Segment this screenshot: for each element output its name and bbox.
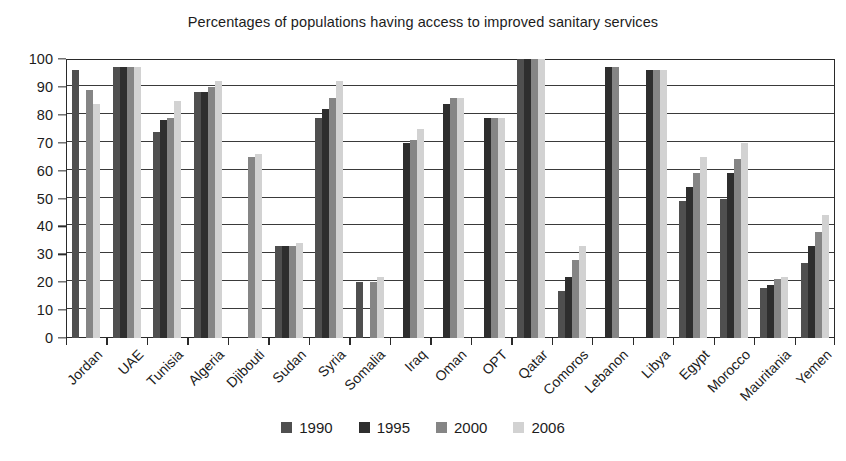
y-tick-mark-10 [58, 309, 66, 310]
x-axis-label-lebanon: Lebanon [582, 347, 630, 395]
x-tick-mark [187, 338, 188, 345]
legend-label: 2000 [454, 420, 487, 435]
y-tick-mark-100 [58, 58, 66, 59]
x-tick-mark [66, 338, 67, 345]
x-axis-label-algeria: Algeria [185, 347, 226, 388]
x-tick-mark [633, 338, 634, 345]
x-axis-label-somalia: Somalia [342, 347, 388, 393]
x-axis-label-egypt: Egypt [677, 347, 712, 382]
y-tick-mark-70 [58, 142, 66, 143]
x-tick-mark [592, 338, 593, 345]
bar-chart: Percentages of populations having access… [0, 0, 846, 461]
y-tick-mark-90 [58, 86, 66, 87]
x-axis-label-uae: UAE [115, 347, 145, 377]
x-axis-label-syria: Syria [315, 347, 347, 379]
y-tick-mark-20 [58, 282, 66, 283]
plot-area [66, 59, 835, 338]
gridline-90 [67, 85, 834, 86]
y-tick-mark-0 [58, 337, 66, 338]
y-tick-label-90: 90 [37, 79, 53, 95]
x-tick-mark [228, 338, 229, 345]
x-axis-label-djibouti: Djibouti [224, 347, 267, 390]
y-tick-label-70: 70 [37, 135, 53, 151]
x-axis-label-sudan: Sudan [269, 347, 308, 386]
y-tick-label-50: 50 [37, 191, 53, 207]
x-tick-mark [390, 338, 391, 345]
gridline-30 [67, 252, 834, 253]
y-tick-label-10: 10 [37, 302, 53, 318]
legend-label: 1995 [377, 420, 410, 435]
x-axis-label-yemen: Yemen [793, 347, 833, 387]
x-axis-labels: JordanUAETunisiaAlgeriaDjiboutiSudanSyri… [66, 345, 835, 415]
chart-title: Percentages of populations having access… [0, 14, 846, 30]
x-tick-mark [834, 338, 835, 345]
legend-swatch-icon [436, 422, 447, 433]
x-axis-label-qatar: Qatar [516, 347, 551, 382]
gridline-10 [67, 308, 834, 309]
gridline-20 [67, 280, 834, 281]
x-tick-mark [754, 338, 755, 345]
y-tick-label-30: 30 [37, 246, 53, 262]
legend-swatch-icon [359, 422, 370, 433]
legend-swatch-icon [513, 422, 524, 433]
y-tick-mark-50 [58, 198, 66, 199]
x-axis-label-iraq: Iraq [402, 347, 429, 374]
gridline-50 [67, 197, 834, 198]
y-axis: 0102030405060708090100 [0, 59, 66, 338]
x-axis-ticks [66, 338, 835, 345]
x-tick-mark [309, 338, 310, 345]
x-tick-mark [471, 338, 472, 345]
gridline-60 [67, 169, 834, 170]
legend-label: 1990 [299, 420, 332, 435]
y-tick-mark-40 [58, 226, 66, 227]
x-axis-label-opt: OPT [479, 347, 509, 377]
y-tick-mark-60 [58, 170, 66, 171]
x-axis-label-tunisia: Tunisia [144, 347, 185, 388]
legend-swatch-icon [281, 422, 292, 433]
x-tick-mark [552, 338, 553, 345]
legend-item-1990[interactable]: 1990 [281, 420, 332, 435]
legend-item-2000[interactable]: 2000 [436, 420, 487, 435]
legend-label: 2006 [531, 420, 564, 435]
x-tick-mark [795, 338, 796, 345]
y-tick-label-60: 60 [37, 163, 53, 179]
legend-item-1995[interactable]: 1995 [359, 420, 410, 435]
x-tick-mark [511, 338, 512, 345]
x-tick-mark [349, 338, 350, 345]
gridlines [67, 60, 834, 337]
chart-legend: 1990199520002006 [0, 420, 846, 435]
x-tick-mark [106, 338, 107, 345]
x-tick-mark [147, 338, 148, 345]
y-tick-label-40: 40 [37, 218, 53, 234]
y-tick-label-0: 0 [45, 330, 53, 346]
gridline-40 [67, 224, 834, 225]
x-tick-mark [714, 338, 715, 345]
y-tick-mark-80 [58, 114, 66, 115]
x-axis-label-oman: Oman [433, 347, 470, 384]
gridline-80 [67, 113, 834, 114]
x-tick-mark [673, 338, 674, 345]
x-tick-mark [430, 338, 431, 345]
y-tick-label-100: 100 [29, 51, 53, 67]
y-tick-mark-30 [58, 254, 66, 255]
x-axis-label-jordan: Jordan [65, 347, 105, 387]
x-tick-mark [268, 338, 269, 345]
gridline-70 [67, 141, 834, 142]
y-tick-label-20: 20 [37, 274, 53, 290]
x-axis-label-libya: Libya [639, 347, 673, 381]
legend-item-2006[interactable]: 2006 [513, 420, 564, 435]
y-tick-label-80: 80 [37, 107, 53, 123]
